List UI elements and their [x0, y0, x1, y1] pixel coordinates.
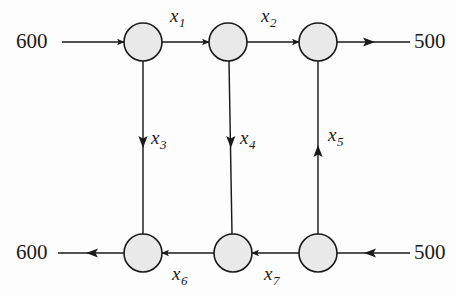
edge-label-x7-subscript: 7 [272, 273, 279, 288]
edge-demand-out-top-right [337, 37, 410, 46]
supply-label-bottom-right: 500 [414, 242, 446, 263]
demand-label-bottom-left: 600 [16, 242, 48, 263]
diagram-canvas: 600 500 600 500 x1 x2 x3 x4 x5 x6 x7 [0, 0, 456, 296]
edge-label-x6: x6 [172, 264, 187, 287]
edge-label-x2: x2 [261, 6, 276, 29]
edge-label-x7: x7 [264, 264, 279, 287]
network-flow-graphic [0, 0, 456, 296]
edge-label-x5-subscript: 5 [336, 134, 343, 149]
node-bottom-left[interactable] [124, 234, 162, 272]
edge-label-x6-subscript: 6 [180, 273, 187, 288]
edge-demand-out-bot-left [58, 248, 124, 257]
node-bottom-middle[interactable] [214, 234, 252, 272]
edge-label-x1-subscript: 1 [178, 15, 185, 30]
node-bottom-right[interactable] [299, 234, 337, 272]
edge-label-x3-subscript: 3 [159, 137, 166, 152]
edge-label-x1: x1 [170, 6, 185, 29]
edge-label-x3: x3 [151, 128, 166, 151]
edge-label-x4: x4 [240, 128, 255, 151]
supply-label-top-left: 600 [16, 31, 48, 52]
node-top-left[interactable] [124, 23, 162, 61]
edge-label-x4-subscript: 4 [248, 137, 255, 152]
edge-label-x2-subscript: 2 [269, 15, 276, 30]
node-top-middle[interactable] [209, 23, 247, 61]
edge-supply-in-bot-right [337, 248, 410, 257]
edge-x5-line [313, 61, 322, 234]
edge-label-x5: x5 [328, 125, 343, 148]
edge-x3-line [138, 61, 147, 234]
node-top-right[interactable] [299, 23, 337, 61]
demand-label-top-right: 500 [414, 31, 446, 52]
edge-x4-line [226, 61, 235, 234]
